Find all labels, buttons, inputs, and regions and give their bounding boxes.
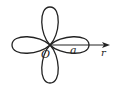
petal-top bbox=[42, 7, 59, 45]
rose-diagram: O a r bbox=[0, 0, 119, 93]
amplitude-label: a bbox=[70, 44, 77, 57]
axis-label: r bbox=[101, 47, 107, 58]
origin-label: O bbox=[41, 48, 50, 61]
